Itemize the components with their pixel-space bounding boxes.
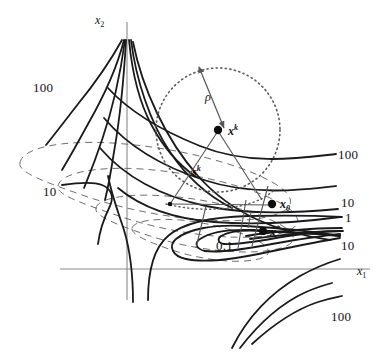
contour-label-right-lower-10: 10 <box>341 239 354 252</box>
contour-10-left-hook <box>62 183 112 244</box>
solid-contours-valley <box>100 88 340 223</box>
solid-contours-upper-left <box>46 40 126 200</box>
y-axis-label: x2 <box>95 14 104 29</box>
point-x-star <box>259 227 267 235</box>
contour-label-upper-left-100: 100 <box>33 81 53 94</box>
contour-label-right-1: 1 <box>345 211 352 224</box>
point-label-x-0: x0 <box>280 198 290 213</box>
point-step-corner <box>168 202 172 206</box>
solid-contour-left-hook <box>62 183 112 244</box>
axes-group <box>60 22 370 300</box>
vector-label-s-k: sk <box>192 165 201 178</box>
contour-label-inner-0p1: 0.1 <box>216 239 233 252</box>
contour-upper-right-b <box>131 40 232 208</box>
trust-region-radius-label: ρ <box>205 91 211 103</box>
solid-contours-bottom-right <box>232 259 342 348</box>
contour-label-left-10: 10 <box>43 185 56 198</box>
step-line-corner-to-x0 <box>170 204 270 205</box>
contour-label-bottom-100: 100 <box>331 310 351 323</box>
point-label-x-star: x* <box>270 225 280 238</box>
contour-label-right-10: 10 <box>341 196 354 209</box>
contour-figure: x2 x1 100 10 100 10 1 10 0.1 100 ρ xk x0… <box>0 0 391 352</box>
point-x-k <box>214 126 222 134</box>
contour-100-upper-left <box>46 40 122 145</box>
step-line-xk-to-x0 <box>218 131 262 200</box>
point-x-0 <box>268 200 276 208</box>
point-label-x-k: xk <box>228 124 238 137</box>
contour-label-right-100: 100 <box>338 148 358 161</box>
x-axis-label: x1 <box>357 265 366 280</box>
